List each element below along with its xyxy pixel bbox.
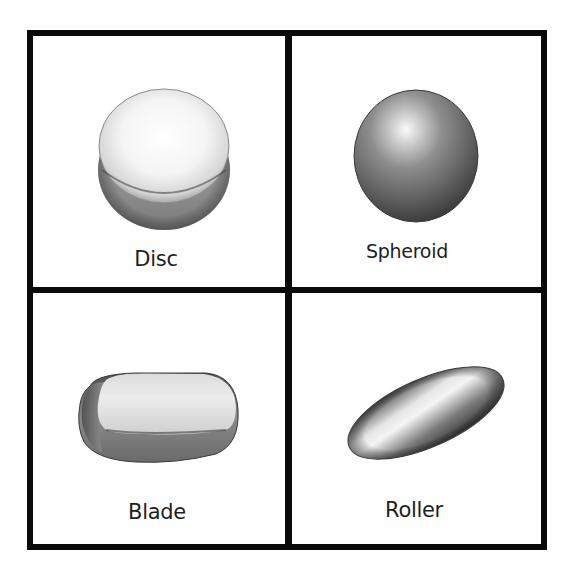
- spheroid-shape-icon: [352, 89, 480, 225]
- disc-shape-icon: [92, 84, 236, 236]
- label-roller: Roller: [385, 498, 443, 522]
- label-disc: Disc: [134, 247, 177, 271]
- blade-shape-icon: [76, 370, 242, 464]
- roller-shape-icon: [340, 358, 512, 468]
- label-blade: Blade: [128, 500, 186, 524]
- label-spheroid: Spheroid: [366, 240, 448, 262]
